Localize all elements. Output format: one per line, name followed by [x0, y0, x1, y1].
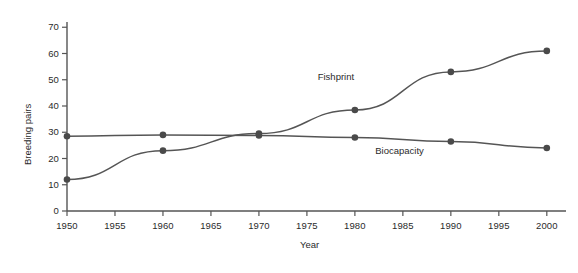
x-tick-label: 1980	[335, 220, 375, 231]
y-tick-label: 60	[21, 48, 59, 59]
y-tick-label: 50	[21, 74, 59, 85]
y-tick-label: 10	[21, 179, 59, 190]
series-annotation-fishprint: Fishprint	[318, 71, 354, 82]
y-tick-label: 70	[21, 21, 59, 32]
data-point-fishprint	[448, 69, 455, 76]
x-tick-label: 2000	[527, 220, 567, 231]
series-markers	[64, 48, 550, 183]
x-tick-label: 1990	[431, 220, 471, 231]
x-tick-label: 1970	[239, 220, 279, 231]
data-point-biocapacity	[256, 132, 263, 139]
y-axis-ticks	[62, 27, 67, 211]
data-point-fishprint	[160, 147, 167, 154]
plot-area	[0, 0, 578, 273]
data-point-fishprint	[64, 176, 71, 183]
data-point-biocapacity	[64, 133, 71, 140]
x-tick-label: 1965	[191, 220, 231, 231]
series-annotation-biocapacity: Biocapacity	[375, 145, 424, 156]
data-point-fishprint	[352, 107, 359, 114]
x-tick-label: 1985	[383, 220, 423, 231]
x-axis-ticks	[67, 211, 547, 216]
data-point-biocapacity	[448, 138, 455, 145]
data-point-biocapacity	[544, 145, 551, 152]
x-tick-label: 1975	[287, 220, 327, 231]
line-chart: 010203040506070 195019551960196519701975…	[0, 0, 578, 273]
y-tick-label: 0	[21, 205, 59, 216]
x-axis-title: Year	[300, 239, 319, 250]
x-tick-label: 1955	[95, 220, 135, 231]
series-line-biocapacity	[67, 135, 547, 148]
x-tick-label: 1995	[479, 220, 519, 231]
series-lines	[67, 51, 547, 180]
series-line-fishprint	[67, 51, 547, 180]
x-tick-label: 1960	[143, 220, 183, 231]
data-point-biocapacity	[160, 132, 167, 139]
y-axis-title: Breeding pairs	[22, 104, 33, 165]
data-point-biocapacity	[352, 134, 359, 141]
data-point-fishprint	[544, 48, 551, 55]
x-tick-label: 1950	[47, 220, 87, 231]
